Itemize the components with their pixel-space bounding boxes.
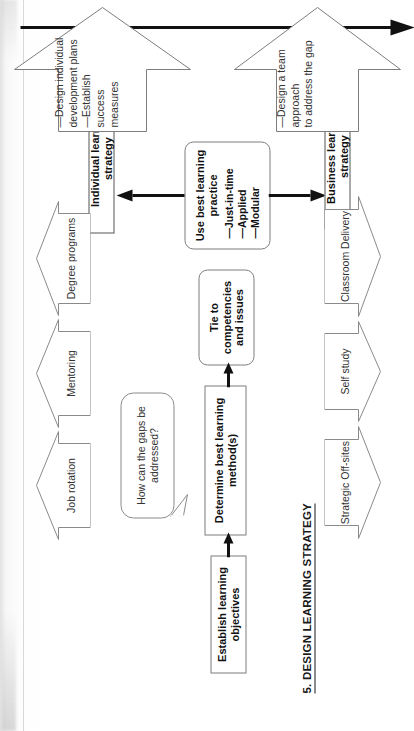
connector-arrow-to-individual-strategy (116, 185, 186, 205)
practice-bullet: —Applied (235, 142, 248, 238)
callout-text: How can the gaps be addressed? (134, 393, 160, 517)
diagram-artwork: 5. DESIGN LEARNING STRATEGY How can the … (0, 0, 414, 731)
method-arrow-label-wrap: Mentoring (34, 317, 90, 429)
connector-arrow-to-business-strategy (268, 185, 328, 205)
step-box-determine-methods[interactable]: Determine best learning method(s) (204, 385, 246, 535)
step-label: Use best learning practice (193, 142, 219, 248)
method-label: Classroom Delivery (324, 193, 382, 319)
step-label: Tie to competencies and issues (207, 270, 246, 364)
scanned-page: 5. DESIGN LEARNING STRATEGY How can the … (0, 0, 414, 731)
step-box-best-practice[interactable]: Use best learning practice —Just-in-time… (184, 141, 270, 249)
method-arrow-label-wrap: Degree programs (34, 199, 90, 317)
outcome-text: —Design a team approach to address the g… (274, 31, 315, 127)
step-box-establish-objectives[interactable]: Establish learning objectives (210, 555, 246, 673)
step-box-tie-competencies[interactable]: Tie to competencies and issues (198, 269, 254, 365)
diagram-canvas: 5. DESIGN LEARNING STRATEGY How can the … (0, 0, 414, 731)
step-label: Establish learning objectives (215, 556, 241, 672)
step-label: Determine best learning method(s) (212, 386, 238, 534)
connector-arrow-methods-to-tie (218, 361, 238, 387)
method-label: Degree programs (34, 199, 90, 317)
callout-tail-icon (170, 492, 188, 518)
method-arrow-label-wrap: Strategic Off-sites (324, 423, 382, 541)
method-label: Self study (324, 319, 382, 423)
method-arrow-label-wrap: Self study (324, 319, 382, 423)
callout-bubble: How can the gaps be addressed? (120, 392, 174, 518)
outcome-text: —Design individual development plans —Es… (52, 35, 120, 127)
method-arrow-label-wrap: Classroom Delivery (324, 193, 382, 319)
practice-bullet: —Modular (248, 142, 261, 238)
method-label: Job rotation (34, 429, 90, 541)
method-label: Strategic Off-sites (324, 423, 382, 541)
page-title: 5. DESIGN LEARNING STRATEGY (300, 503, 315, 693)
practice-bullet: —Just-in-time (222, 142, 235, 238)
outcome-text-individual-wrap: —Design individual development plans —Es… (52, 35, 152, 127)
method-label: Mentoring (34, 317, 90, 429)
method-arrow-label-wrap: Job rotation (34, 429, 90, 541)
connector-arrow-objectives-to-methods (218, 531, 238, 557)
outcome-text-business-wrap: —Design a team approach to address the g… (274, 31, 354, 127)
